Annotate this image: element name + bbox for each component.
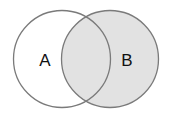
set-b-label: B [121,51,132,70]
set-a-label: A [39,51,51,70]
venn-diagram: A B [0,0,170,117]
